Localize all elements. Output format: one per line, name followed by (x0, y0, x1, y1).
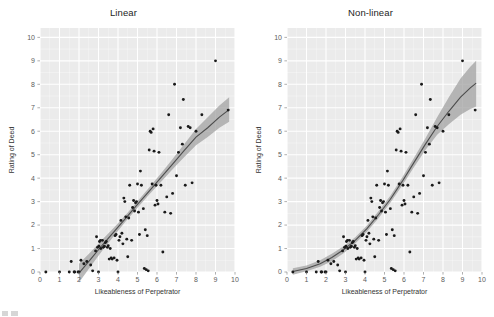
svg-text:5: 5 (383, 276, 387, 283)
svg-text:4: 4 (31, 175, 35, 182)
svg-text:2: 2 (278, 221, 282, 228)
scatter-plot-nonlinear: 012345678910012345678910Likeableness of … (247, 0, 494, 317)
svg-text:0: 0 (278, 268, 282, 275)
svg-text:1: 1 (58, 276, 62, 283)
svg-text:7: 7 (175, 276, 179, 283)
svg-text:10: 10 (27, 34, 35, 41)
svg-text:6: 6 (155, 276, 159, 283)
svg-text:Rating of Deed: Rating of Deed (255, 127, 263, 174)
svg-text:1: 1 (31, 245, 35, 252)
svg-text:8: 8 (31, 81, 35, 88)
svg-text:9: 9 (214, 276, 218, 283)
svg-text:3: 3 (31, 198, 35, 205)
svg-text:4: 4 (278, 175, 282, 182)
svg-text:5: 5 (136, 276, 140, 283)
figure-root: Linear 012345678910012345678910Likeablen… (0, 0, 494, 317)
scan-artifact (2, 311, 18, 316)
svg-text:9: 9 (278, 57, 282, 64)
svg-text:8: 8 (194, 276, 198, 283)
svg-text:1: 1 (278, 245, 282, 252)
chart-panel-linear: Linear 012345678910012345678910Likeablen… (0, 0, 247, 317)
svg-text:9: 9 (461, 276, 465, 283)
svg-text:0: 0 (31, 268, 35, 275)
svg-text:6: 6 (402, 276, 406, 283)
svg-text:Rating of Deed: Rating of Deed (8, 127, 16, 174)
svg-text:10: 10 (231, 276, 239, 283)
scatter-plot-linear: 012345678910012345678910Likeableness of … (0, 0, 247, 317)
svg-text:0: 0 (38, 276, 42, 283)
svg-text:3: 3 (278, 198, 282, 205)
svg-text:Likeableness of Perpetrator: Likeableness of Perpetrator (95, 288, 181, 296)
svg-text:0: 0 (285, 276, 289, 283)
svg-text:3: 3 (97, 276, 101, 283)
svg-text:7: 7 (278, 104, 282, 111)
svg-text:Likeableness of Perpetrator: Likeableness of Perpetrator (342, 288, 428, 296)
svg-text:3: 3 (344, 276, 348, 283)
chart-panel-nonlinear: Non-linear 012345678910012345678910Likea… (247, 0, 494, 317)
svg-text:1: 1 (305, 276, 309, 283)
svg-text:2: 2 (324, 276, 328, 283)
svg-text:2: 2 (31, 221, 35, 228)
svg-text:8: 8 (278, 81, 282, 88)
svg-text:4: 4 (116, 276, 120, 283)
svg-text:2: 2 (77, 276, 81, 283)
svg-text:5: 5 (31, 151, 35, 158)
svg-text:7: 7 (422, 276, 426, 283)
svg-text:7: 7 (31, 104, 35, 111)
svg-text:10: 10 (478, 276, 486, 283)
svg-text:4: 4 (363, 276, 367, 283)
svg-text:5: 5 (278, 151, 282, 158)
svg-text:6: 6 (278, 128, 282, 135)
svg-text:8: 8 (441, 276, 445, 283)
svg-text:10: 10 (274, 34, 282, 41)
svg-text:9: 9 (31, 57, 35, 64)
svg-text:6: 6 (31, 128, 35, 135)
